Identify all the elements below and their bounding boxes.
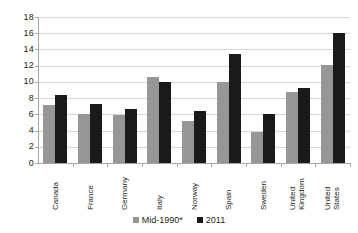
x-axis-label: Norway (191, 166, 200, 210)
y-axis-tick-mark (35, 17, 38, 18)
bar-group (321, 17, 345, 163)
bar-spain-2011 (229, 54, 241, 164)
x-axis-label-line: States (332, 166, 341, 210)
x-axis-tick-mark (73, 163, 74, 167)
y-axis-line (38, 17, 39, 164)
legend-label: Mid-1990* (142, 216, 183, 225)
x-axis-label: UnitedStates (324, 166, 341, 210)
x-axis-label-line: Norway (191, 166, 200, 210)
bar-group (43, 17, 67, 163)
x-axis-label-line: Canada (52, 166, 61, 210)
bar-sweden-mid-1990 (251, 132, 263, 163)
x-axis-label: Sweden (260, 166, 269, 210)
y-axis-tick-label: 8 (4, 94, 34, 103)
x-axis-tick-mark (281, 163, 282, 167)
y-axis-tick-label: 18 (4, 13, 34, 22)
x-axis-category-labels: CanadaFranceGermanyItalyNorwaySpainSwede… (0, 166, 358, 212)
y-axis-tick-mark (35, 82, 38, 83)
y-axis-tick-mark (35, 98, 38, 99)
x-axis-label: Spain (225, 166, 234, 210)
x-axis-label: UnitedKingdom (289, 166, 306, 210)
legend-swatch-icon (133, 217, 139, 223)
x-axis-label-line: Italy (156, 166, 165, 210)
x-axis-tick-mark (350, 163, 351, 167)
bar-group (286, 17, 310, 163)
bar-france-mid-1990 (78, 114, 90, 163)
y-axis-tick-label: 16 (4, 29, 34, 38)
legend-item[interactable]: 2011 (197, 216, 225, 225)
bar-united-kingdom-2011 (298, 88, 310, 163)
bar-sweden-2011 (263, 114, 275, 163)
bar-group (147, 17, 171, 163)
bar-group (78, 17, 102, 163)
y-axis-tick-label: 14 (4, 45, 34, 54)
y-axis-tick-label: 4 (4, 126, 34, 135)
y-axis-tick-label: 10 (4, 77, 34, 86)
y-axis-tick-label: 12 (4, 61, 34, 70)
x-axis-label-line: France (87, 166, 96, 210)
x-axis-tick-mark (315, 163, 316, 167)
bar-group (217, 17, 241, 163)
x-axis-label-line: Kingdom (298, 166, 307, 210)
bar-group (251, 17, 275, 163)
x-axis-tick-mark (211, 163, 212, 167)
bar-chart: 024681012141618 CanadaFranceGermanyItaly… (0, 0, 358, 233)
x-axis-label-line: Spain (225, 166, 234, 210)
y-axis-tick-mark (35, 147, 38, 148)
y-axis-tick-mark (35, 131, 38, 132)
x-axis-tick-mark (107, 163, 108, 167)
bar-united-states-2011 (333, 33, 345, 163)
x-axis-tick-mark (177, 163, 178, 167)
bar-canada-2011 (55, 95, 67, 163)
bar-germany-2011 (125, 109, 137, 163)
bar-norway-2011 (194, 111, 206, 163)
bar-united-states-mid-1990 (321, 65, 333, 163)
bar-united-kingdom-mid-1990 (286, 92, 298, 163)
x-axis-label: Italy (156, 166, 165, 210)
x-axis-label: France (87, 166, 96, 210)
legend-item[interactable]: Mid-1990* (133, 216, 183, 225)
x-axis-baseline (38, 163, 350, 164)
bar-group (113, 17, 137, 163)
legend-label: 2011 (206, 216, 225, 225)
bar-group (182, 17, 206, 163)
y-axis-tick-mark (35, 49, 38, 50)
legend-swatch-icon (197, 217, 203, 223)
y-axis-tick-mark (35, 114, 38, 115)
x-axis-label: Germany (121, 166, 130, 210)
bar-italy-2011 (159, 82, 171, 163)
x-axis-tick-mark (246, 163, 247, 167)
y-axis-tick-label: 2 (4, 142, 34, 151)
y-axis-tick-mark (35, 66, 38, 67)
bar-canada-mid-1990 (43, 105, 55, 163)
bar-norway-mid-1990 (182, 121, 194, 163)
bar-germany-mid-1990 (113, 115, 125, 163)
y-axis-tick-mark (35, 163, 38, 164)
bar-france-2011 (90, 104, 102, 163)
bar-italy-mid-1990 (147, 77, 159, 163)
y-axis-tick-label: 6 (4, 110, 34, 119)
x-axis-tick-mark (142, 163, 143, 167)
x-axis-label-line: Sweden (260, 166, 269, 210)
x-axis-label-line: United (324, 166, 333, 210)
x-axis-label-line: Germany (121, 166, 130, 210)
chart-legend: Mid-1990*2011 (0, 213, 358, 227)
bar-spain-mid-1990 (217, 82, 229, 163)
y-axis-tick-mark (35, 33, 38, 34)
x-axis-label: Canada (52, 166, 61, 210)
plot-area (38, 17, 350, 163)
